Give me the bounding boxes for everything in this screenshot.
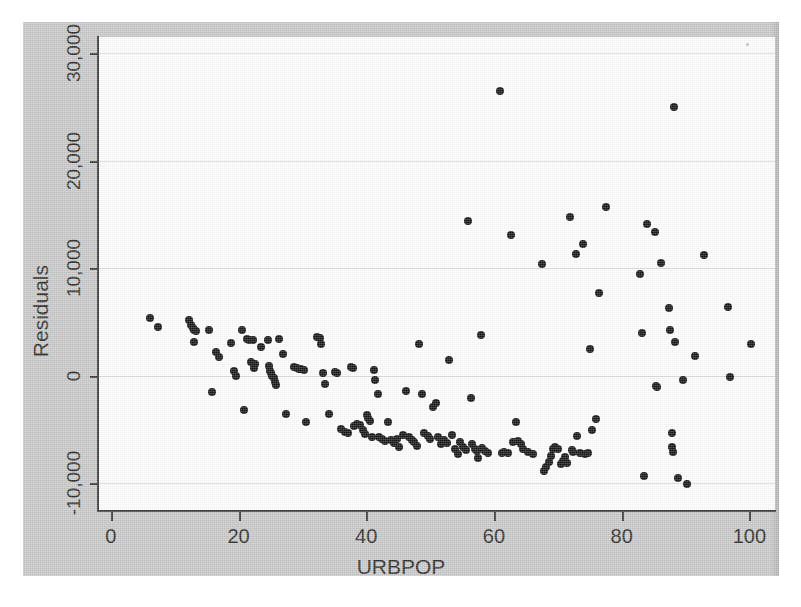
y-tick-label: 10,000 — [63, 239, 85, 297]
scatter-point — [747, 340, 755, 348]
x-axis-title: URBPOP — [23, 555, 779, 579]
scatter-point — [205, 326, 213, 334]
scatter-point — [325, 410, 333, 418]
y-tick-mark-0 — [90, 483, 98, 485]
y-axis-title: Residuals — [29, 265, 53, 357]
scatter-point — [272, 381, 280, 389]
gridline-y-0 — [98, 483, 775, 484]
scatter-point — [432, 399, 440, 407]
scatter-point — [512, 418, 520, 426]
scatter-point — [588, 426, 596, 434]
scatter-point — [395, 443, 403, 451]
scatter-point — [464, 217, 472, 225]
scatter-point — [349, 364, 357, 372]
scatter-point — [640, 472, 648, 480]
scatter-point — [566, 213, 574, 221]
scatter-point — [208, 388, 216, 396]
scan-artifact-speck — [746, 43, 749, 46]
scatter-point — [238, 326, 246, 334]
x-tick-mark-3 — [494, 512, 496, 521]
x-tick-label: 100 — [733, 525, 766, 548]
plot-area — [98, 37, 775, 510]
gridline-y-4 — [98, 53, 775, 54]
scatter-point — [584, 449, 592, 457]
scatter-point — [275, 335, 283, 343]
scatter-point — [240, 406, 248, 414]
scatter-point — [651, 228, 659, 236]
scatter-point — [666, 326, 674, 334]
scatter-point — [595, 289, 603, 297]
gridline-y-3 — [98, 161, 775, 162]
scatter-point — [154, 323, 162, 331]
scatter-point — [454, 450, 462, 458]
y-tick-label: 20,000 — [63, 132, 85, 190]
x-tick-label: 0 — [105, 525, 116, 548]
gridline-y-2 — [98, 268, 775, 269]
scatter-point — [657, 259, 665, 267]
scatter-point — [547, 452, 555, 460]
scatter-point — [227, 339, 235, 347]
gridline-y-1 — [98, 376, 775, 377]
scatter-point — [586, 345, 594, 353]
scatter-point — [665, 304, 673, 312]
x-tick-mark-2 — [366, 512, 368, 521]
scatter-point — [448, 431, 456, 439]
figure-panel: -10,000010,00020,00030,000 020406080100 … — [23, 22, 779, 576]
scatter-point — [445, 356, 453, 364]
scatter-point — [700, 251, 708, 259]
y-tick-mark-4 — [90, 53, 98, 55]
y-tick-label: 0 — [63, 370, 85, 381]
scatter-point — [653, 383, 661, 391]
scatter-point — [302, 418, 310, 426]
scatter-point — [250, 364, 258, 372]
scatter-point — [415, 340, 423, 348]
scatter-point — [538, 260, 546, 268]
scatter-point — [671, 338, 679, 346]
scatter-point — [282, 410, 290, 418]
scatter-point — [215, 353, 223, 361]
scatter-point — [504, 449, 512, 457]
scatter-point — [724, 303, 732, 311]
y-tick-label: -10,000 — [63, 451, 85, 515]
scatter-point — [563, 459, 571, 467]
scatter-point — [257, 343, 265, 351]
x-tick-label: 60 — [483, 525, 505, 548]
scatter-point — [477, 331, 485, 339]
y-tick-mark-3 — [90, 161, 98, 163]
scatter-point — [374, 390, 382, 398]
scatter-point — [726, 373, 734, 381]
scatter-point — [371, 376, 379, 384]
y-axis-line — [97, 36, 99, 511]
scatter-point — [679, 376, 687, 384]
scatter-point — [249, 336, 257, 344]
scatter-point — [474, 454, 482, 462]
x-tick-mark-0 — [111, 512, 113, 521]
scatter-point — [426, 435, 434, 443]
x-tick-mark-1 — [239, 512, 241, 521]
scatter-point — [572, 250, 580, 258]
scatter-point — [232, 372, 240, 380]
scatter-point — [484, 449, 492, 457]
scatter-point — [636, 270, 644, 278]
scatter-point — [643, 220, 651, 228]
scatter-point — [529, 450, 537, 458]
scatter-point — [683, 480, 691, 488]
scatter-point — [190, 338, 198, 346]
scatter-point — [573, 432, 581, 440]
scatter-point — [366, 417, 374, 425]
scatter-point — [146, 314, 154, 322]
scatter-point — [413, 442, 421, 450]
scatter-point — [300, 366, 308, 374]
scatter-point — [669, 448, 677, 456]
x-tick-label: 20 — [227, 525, 249, 548]
scatter-point — [443, 439, 451, 447]
scatter-point — [579, 240, 587, 248]
scatter-point — [496, 87, 504, 95]
y-tick-mark-2 — [90, 268, 98, 270]
scatter-point — [670, 103, 678, 111]
scatter-point — [321, 380, 329, 388]
scatter-point — [317, 340, 325, 348]
scatter-point — [592, 415, 600, 423]
scatter-point — [638, 329, 646, 337]
x-axis-line — [97, 510, 776, 512]
